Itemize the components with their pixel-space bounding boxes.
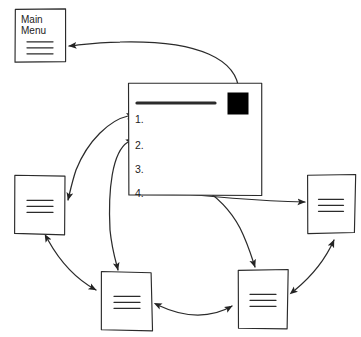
bottom-left-page[interactable] xyxy=(101,272,152,331)
right-page-outline xyxy=(308,174,356,233)
bottom-right-page[interactable] xyxy=(238,269,288,328)
accent-square[interactable] xyxy=(228,93,248,114)
left-page-outline xyxy=(15,175,65,235)
main-content-screen-layer xyxy=(129,83,262,195)
list-item-3[interactable]: 3. xyxy=(135,163,144,175)
bottom-left-page-outline xyxy=(101,272,152,331)
main-content-screen[interactable] xyxy=(129,83,262,195)
connector-item1-to-left-page xyxy=(68,116,128,200)
list-item-2[interactable]: 2. xyxy=(135,139,144,151)
right-page[interactable] xyxy=(308,174,356,233)
connector-item2-to-bottom-left-page xyxy=(110,142,128,270)
diagram-svg xyxy=(0,0,361,337)
main-menu-page[interactable] xyxy=(15,9,66,62)
list-item-4[interactable]: 4. xyxy=(135,187,144,199)
list-item-1[interactable]: 1. xyxy=(135,113,144,125)
bottom-right-page-outline xyxy=(238,269,288,328)
connector-bottom-right-to-right-page xyxy=(295,240,334,290)
left-page[interactable] xyxy=(15,175,65,235)
connector-bottom-left-to-bottom-right xyxy=(160,306,232,315)
diagram-canvas: Main Menu1.2.3.4. xyxy=(0,0,361,337)
connector-left-page-to-bottom-left-page xyxy=(48,240,96,290)
